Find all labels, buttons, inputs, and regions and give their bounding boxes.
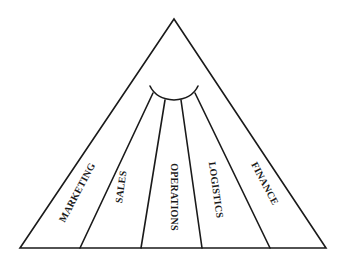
segment-label-logistics: LOGISTICS	[207, 161, 226, 219]
segment-label-marketing: MARKETING	[57, 161, 98, 224]
segment-label-sales: SALES	[113, 170, 128, 204]
segment-label-operations: OPERATIONS	[169, 163, 180, 231]
divider-sales-operations	[141, 100, 165, 248]
divider-operations-logistics	[181, 100, 202, 248]
top-arc	[150, 86, 198, 100]
pyramid-diagram: MARKETING SALES OPERATIONS LOGISTICS FIN…	[0, 0, 344, 264]
segment-label-finance: FINANCE	[249, 160, 281, 207]
